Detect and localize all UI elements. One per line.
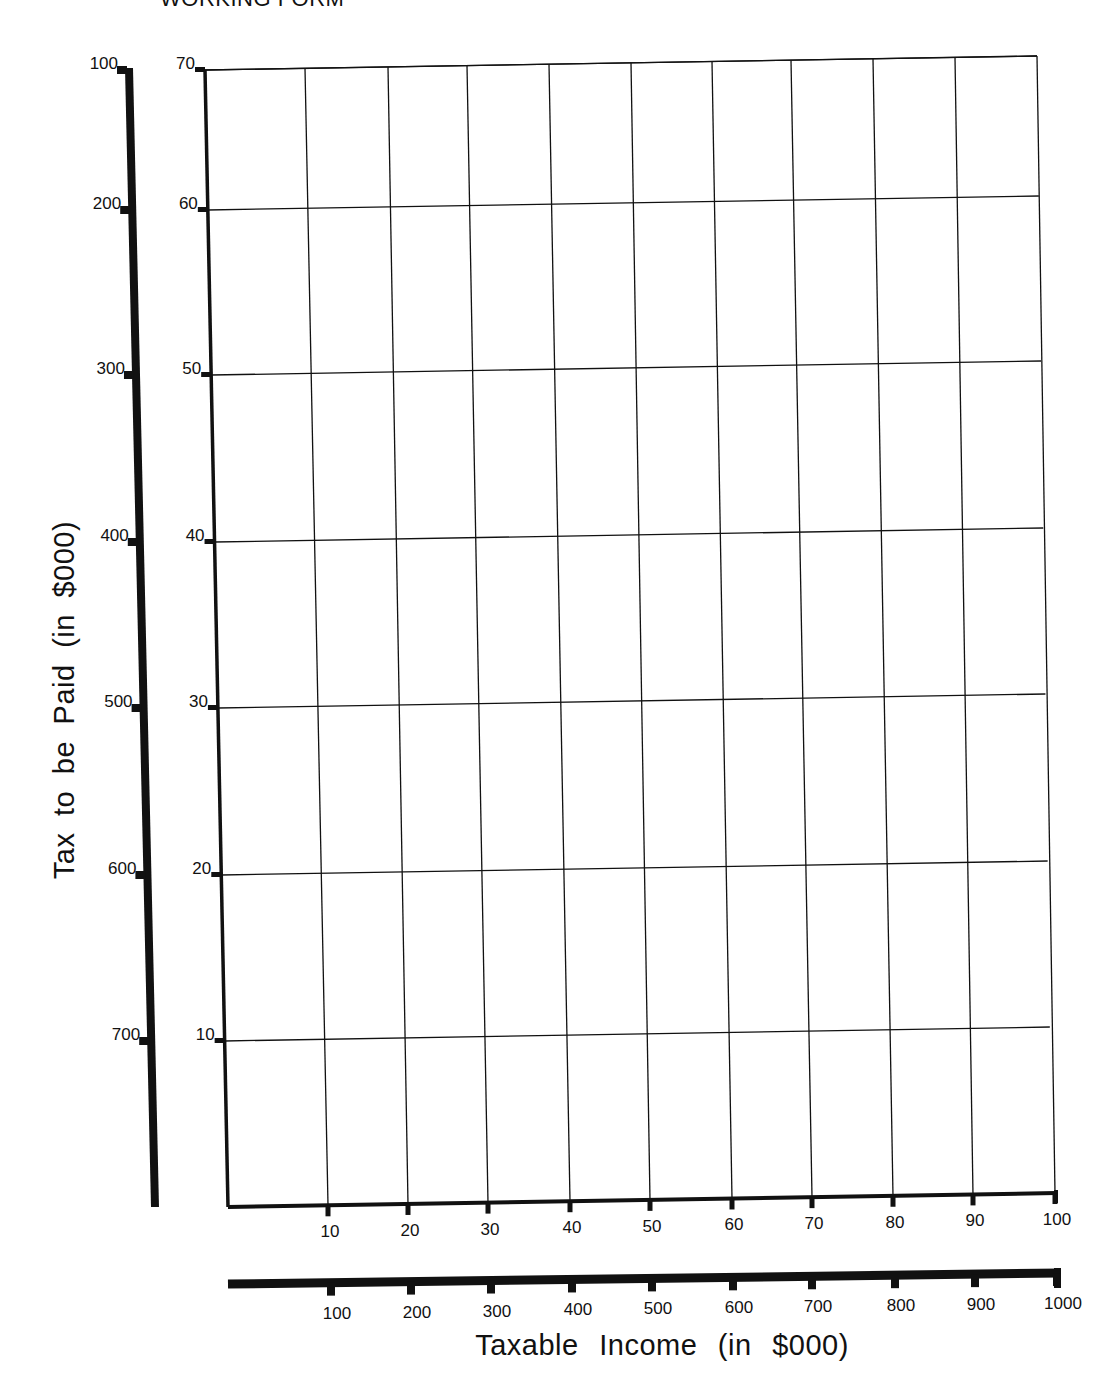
outer-x-tick-label: 900 [967,1295,995,1314]
outer-x-tick [327,1283,335,1296]
outer-y-tick [120,206,130,214]
inner-x-tick [891,1196,896,1207]
grid-line-v [791,60,812,1197]
outer-y-tick [124,371,134,379]
tick-labels: 1070020600305004040050300602007010010203… [90,54,1082,1323]
outer-x-axis [228,1273,1060,1284]
outer-x-tick [808,1276,816,1289]
outer-y-tick-label: 100 [90,54,118,73]
outer-x-tick-label: 700 [804,1297,832,1316]
inner-x-tick [730,1198,735,1209]
grid-lines [205,56,1055,1205]
outer-x-tick-label: 400 [564,1300,592,1319]
grid-line-h [211,361,1041,375]
outer-x-tick-label: 300 [483,1302,511,1321]
outer-x-tick [1053,1273,1061,1286]
outer-y-tick-label: 600 [108,859,136,878]
outer-x-tick-label: 100 [323,1304,351,1323]
outer-x-tick [487,1281,495,1294]
grid-line-h [215,528,1044,542]
outer-x-tick-label: 800 [887,1296,915,1315]
grid-line-h [218,694,1046,708]
outer-x-tick-label: 600 [725,1298,753,1317]
inner-x-tick-label: 10 [321,1222,340,1241]
inner-y-tick-label: 20 [192,859,211,878]
grid-line-h [225,1027,1050,1041]
outer-y-tick-label: 500 [104,692,132,711]
outer-x-tick [971,1274,979,1287]
outer-y-tick-label: 300 [97,359,125,378]
grid-line-v [388,67,408,1204]
inner-x-tick [971,1194,976,1205]
inner-x-tick [406,1204,411,1215]
grid-line-h [221,861,1047,875]
grid-line-v [467,66,488,1203]
inner-x-tick [486,1203,491,1214]
outer-x-tick [568,1279,576,1292]
inner-y-tick [201,372,211,377]
inner-y-tick [215,1038,225,1043]
inner-y-tick [195,67,205,72]
outer-x-tick [407,1282,415,1295]
y-axis-label: Tax to be Paid (in $000) [48,521,81,879]
inner-y-tick [205,539,215,544]
inner-y-tick-label: 50 [182,359,201,378]
inner-x-axis [228,1193,1056,1207]
inner-x-tick-label: 90 [966,1211,985,1230]
grid-line-h [208,196,1039,210]
outer-y-tick-label: 700 [112,1025,140,1044]
inner-x-tick-label: 80 [886,1213,905,1232]
grid-line-v [955,57,973,1194]
inner-y-tick-label: 40 [186,526,205,545]
outer-y-tick [117,66,127,74]
outer-x-tick [891,1275,899,1288]
grid-line-v [631,63,650,1200]
inner-x-tick [568,1201,573,1212]
inner-y-tick-label: 10 [196,1025,215,1044]
outer-x-tick [729,1277,737,1290]
outer-y-tick [132,704,142,712]
outer-y-tick-label: 400 [100,526,128,545]
inner-x-tick [326,1205,331,1216]
inner-x-tick [810,1197,815,1208]
outer-x-tick-label: 200 [403,1303,431,1322]
grid-line-v [1037,56,1055,1193]
grid-line-v [712,61,732,1198]
inner-y-tick [208,705,218,710]
outer-y-tick [135,871,145,879]
inner-x-tick-label: 20 [401,1221,420,1240]
inner-y-tick-label: 60 [179,194,198,213]
grid-line-v [549,64,570,1201]
inner-x-tick-label: 70 [805,1214,824,1233]
outer-x-tick-label: 1000 [1044,1294,1082,1313]
grid-top-border [205,56,1037,70]
inner-x-tick-label: 60 [725,1215,744,1234]
inner-x-tick-label: 30 [481,1220,500,1239]
outer-x-tick [648,1278,656,1291]
grid-line-v [873,59,893,1196]
inner-x-tick [1053,1193,1058,1204]
axes [117,66,1061,1296]
inner-y-tick-label: 70 [176,54,195,73]
inner-y-tick-label: 30 [189,692,208,711]
inner-y-tick [198,207,208,212]
inner-y-tick [211,872,221,877]
outer-y-tick [139,1037,149,1045]
grid-line-v [305,68,328,1205]
outer-y-tick-label: 200 [93,194,121,213]
tax-chart: 1070020600305004040050300602007010010203… [0,0,1110,1388]
inner-x-tick-label: 50 [643,1217,662,1236]
x-axis-label: Taxable Income (in $000) [475,1329,849,1362]
outer-x-tick-label: 500 [644,1299,672,1318]
inner-x-tick-label: 100 [1043,1210,1071,1229]
inner-x-tick [648,1200,653,1211]
outer-y-tick [128,538,138,546]
inner-x-tick-label: 40 [563,1218,582,1237]
